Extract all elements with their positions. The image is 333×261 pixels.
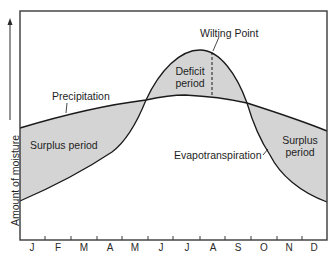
month-label: J bbox=[177, 242, 197, 253]
month-label: M bbox=[125, 242, 145, 253]
deficit-label-line1: Deficit bbox=[172, 65, 208, 77]
wilting-point-label: Wilting Point bbox=[200, 27, 258, 39]
precipitation-label: Precipitation bbox=[52, 90, 110, 102]
month-label: N bbox=[279, 242, 299, 253]
month-label: F bbox=[48, 242, 68, 253]
y-axis-label: Amount of moisture bbox=[9, 116, 21, 226]
month-label: M bbox=[74, 242, 94, 253]
month-label: S bbox=[228, 242, 248, 253]
month-label: A bbox=[203, 242, 223, 253]
month-label: A bbox=[100, 242, 120, 253]
surplus-right-label-line1: Surplus bbox=[278, 134, 322, 146]
month-label: D bbox=[304, 242, 324, 253]
evapotranspiration-leader bbox=[263, 149, 268, 155]
evapotranspiration-label: Evapotranspiration bbox=[174, 149, 262, 161]
moisture-chart bbox=[0, 0, 333, 261]
surplus-left-label: Surplus period bbox=[30, 139, 98, 151]
wilting-point-leader bbox=[213, 37, 219, 51]
precipitation-leader bbox=[66, 103, 67, 113]
deficit-label-line2: period bbox=[172, 77, 208, 89]
month-label: J bbox=[22, 242, 42, 253]
month-label: J bbox=[151, 242, 171, 253]
arrow-up-icon bbox=[8, 18, 13, 25]
month-label: O bbox=[254, 242, 274, 253]
surplus-right-label-line2: period bbox=[278, 146, 322, 158]
